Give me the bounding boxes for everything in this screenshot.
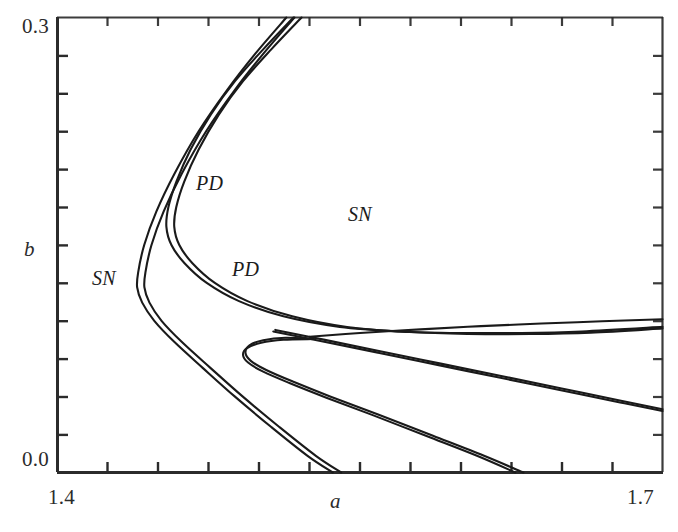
- curve-label-pd-upper: PD: [196, 172, 223, 195]
- curve-label-sn-left: SN: [92, 267, 116, 290]
- bifurcation-curves: [137, 18, 663, 473]
- y-axis-title: b: [24, 237, 35, 262]
- y-tick-label-min: 0.0: [22, 447, 49, 472]
- x-axis-title: a: [330, 489, 341, 514]
- curve-label-sn-mid: SN: [348, 203, 372, 226]
- x-axis-ticks: [108, 462, 613, 472]
- curve-label-pd-lower: PD: [232, 258, 259, 281]
- x-tick-label-min: 1.4: [48, 485, 75, 510]
- bifurcation-diagram-figure: 0.3 0.0 1.4 1.7 a b SN PD PD SN: [0, 0, 678, 532]
- y-tick-label-max: 0.3: [22, 14, 49, 39]
- curve-pd: [166, 18, 662, 334]
- curve-pd: [245, 338, 523, 473]
- x-tick-label-max: 1.7: [627, 485, 654, 510]
- axis-frame: [57, 17, 663, 473]
- curve-sn: [137, 18, 333, 473]
- plot-canvas: [0, 0, 678, 532]
